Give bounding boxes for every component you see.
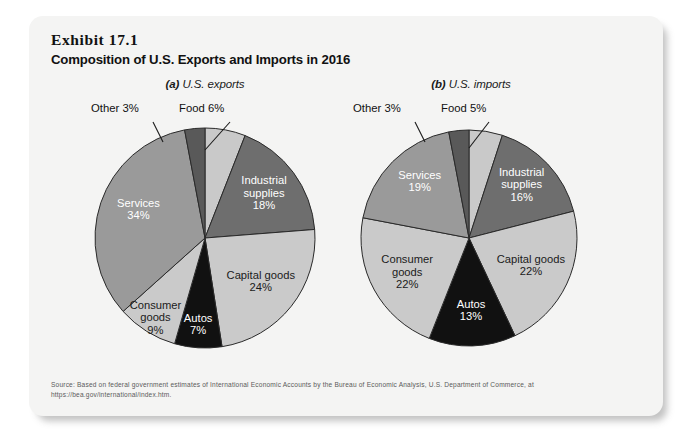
callout-other-imports: Other 3% — [353, 102, 401, 114]
panel-caption-prefix: (a) — [166, 78, 180, 90]
callout-other-exports: Other 3% — [91, 102, 139, 114]
pie-chart-us-imports: Industrialsupplies16%Capital goods22%Aut… — [321, 120, 621, 368]
exhibit-title: Composition of U.S. Exports and Imports … — [51, 51, 611, 69]
panel-caption-text: U.S. imports — [446, 78, 511, 90]
leader-line-other — [415, 122, 425, 142]
panel-caption-prefix: (b) — [431, 78, 445, 90]
callout-food-exports: Food 6% — [179, 102, 224, 114]
panel-caption-text: U.S. exports — [179, 78, 244, 90]
panel-caption-imports: (b) U.S. imports — [321, 78, 621, 90]
pie-chart-us-exports: Industrialsupplies18%Capital goods24%Aut… — [55, 120, 355, 368]
chart-panel-us-imports: (b) U.S. imports Other 3% Food 5% Indust… — [321, 78, 621, 368]
exhibit-card: Exhibit 17.1 Composition of U.S. Exports… — [29, 16, 663, 416]
chart-panel-us-exports: (a) U.S. exports Other 3% Food 6% Indust… — [55, 78, 355, 368]
exhibit-number: Exhibit 17.1 — [51, 31, 611, 49]
callout-food-imports: Food 5% — [441, 102, 486, 114]
pie-label-autos: Autos13% — [457, 298, 486, 322]
source-note-line2: https://bea.gov/international/index.htm. — [51, 390, 641, 400]
source-note-line1: Source: Based on federal government esti… — [51, 380, 641, 390]
exhibit-header: Exhibit 17.1 Composition of U.S. Exports… — [51, 31, 611, 69]
source-note: Source: Based on federal government esti… — [51, 380, 641, 400]
panel-caption-exports: (a) U.S. exports — [55, 78, 355, 90]
